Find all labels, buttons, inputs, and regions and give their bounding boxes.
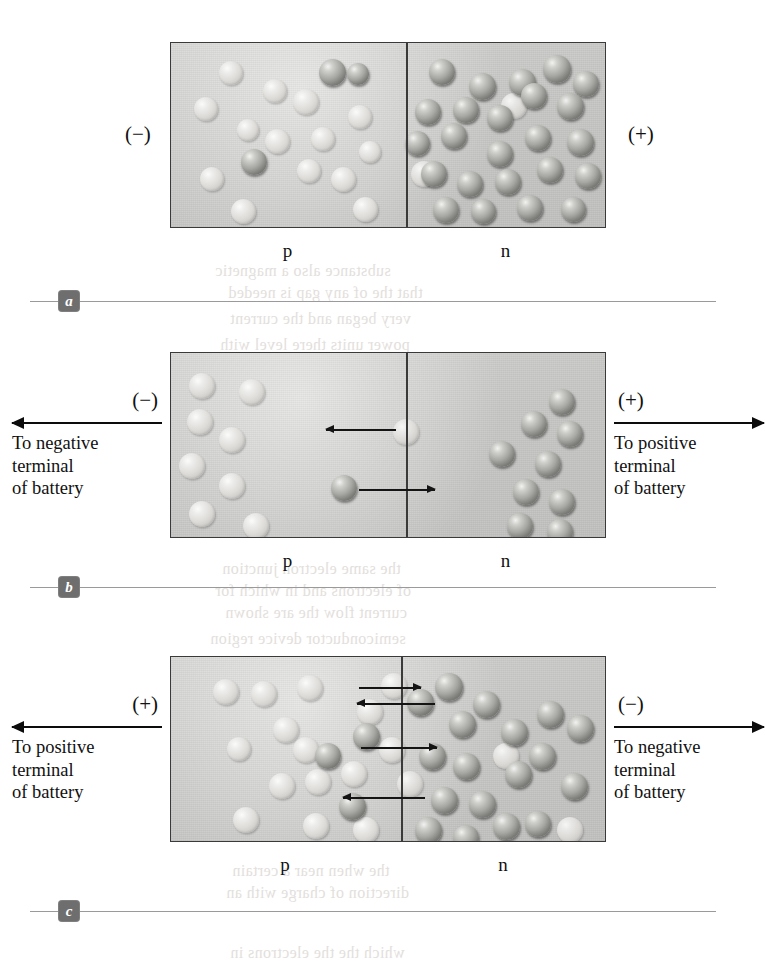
electron-carrier <box>441 123 467 149</box>
arrow-head-icon <box>325 425 334 433</box>
hole-carrier <box>219 427 245 453</box>
arrow-head-icon <box>11 721 24 733</box>
electron-carrier <box>347 63 369 85</box>
junction-line <box>406 353 408 537</box>
electron-carrier <box>557 93 584 120</box>
electron-carrier <box>521 411 547 437</box>
region-label-p: p <box>268 241 308 260</box>
arrow-shaft <box>357 703 435 705</box>
panel-marker-a: a <box>30 290 716 312</box>
hole-carrier <box>200 167 224 191</box>
electron-carrier <box>561 773 588 800</box>
electron-carrier <box>549 389 575 415</box>
arrow-head-icon <box>752 721 765 733</box>
electron-carrier <box>521 83 547 109</box>
hole-carrier <box>557 817 583 842</box>
battery-terminal-right: (+)To positive terminal of battery <box>614 390 764 500</box>
electron-carrier <box>567 129 594 156</box>
electron-carrier <box>449 711 476 738</box>
lead-arrow-right <box>614 721 764 733</box>
hole-carrier <box>237 119 259 141</box>
panel-badge: c <box>58 900 80 922</box>
bleedthrough-text: semiconductor device region <box>210 630 406 648</box>
battery-terminal-left: (−)To negative terminal of battery <box>12 390 162 500</box>
electron-carrier <box>415 99 441 125</box>
electron-carrier <box>431 787 458 814</box>
hole-carrier <box>219 473 245 499</box>
electron-carrier <box>561 197 586 222</box>
electron-carrier <box>487 141 513 167</box>
polarity-right: (+) <box>614 390 764 411</box>
electron-carrier <box>507 513 533 538</box>
panel-badge: b <box>58 576 80 598</box>
region-label-n: n <box>483 855 523 874</box>
hole-carrier <box>231 199 256 224</box>
electron-carrier <box>453 97 479 123</box>
hole-carrier <box>269 773 295 799</box>
hole-carrier <box>265 129 290 154</box>
electron-carrier <box>487 105 513 131</box>
electron-carrier <box>535 451 561 477</box>
hole-carrier <box>263 79 287 103</box>
arrow-shaft <box>343 797 425 799</box>
polarity-right: (−) <box>614 694 764 715</box>
junction-line <box>406 43 408 227</box>
hole-carrier <box>273 717 299 743</box>
panel-divider-rule <box>30 911 716 912</box>
electron-carrier <box>495 169 521 195</box>
electron-carrier <box>505 761 532 788</box>
arrow-shaft <box>614 422 764 424</box>
bleedthrough-text: very began and the current <box>230 310 411 328</box>
region-label-p: p <box>268 551 308 570</box>
electron-carrier <box>547 519 573 538</box>
electron-carrier <box>421 161 447 187</box>
arrow-head-icon <box>427 485 436 493</box>
electron-carrier <box>529 743 556 770</box>
hole-carrier <box>303 813 329 839</box>
arrow-shaft <box>614 726 764 728</box>
arrow-head-icon <box>356 699 365 707</box>
electron-carrier <box>429 59 455 85</box>
hole-carrier <box>219 61 243 85</box>
panel-marker-c: c <box>30 900 716 922</box>
region-label-n: n <box>486 241 526 260</box>
electron-carrier <box>453 825 479 842</box>
electron-carrier <box>567 715 594 742</box>
region-label-p: p <box>265 855 305 874</box>
hole-carrier <box>359 141 381 163</box>
arrow-head-icon <box>11 417 24 429</box>
electron-carrier <box>537 701 564 728</box>
arrow-head-icon <box>752 417 765 429</box>
terminal-caption-left: To positive terminal of battery <box>12 736 162 804</box>
hole-carrier <box>297 675 323 701</box>
hole-carrier <box>251 681 277 707</box>
electron-carrier <box>513 479 539 505</box>
polarity-left: (−) <box>125 124 151 145</box>
electron-carrier <box>501 719 528 746</box>
panel-badge: a <box>58 290 80 312</box>
arrow-shaft <box>326 429 396 431</box>
hole-carrier <box>233 807 259 833</box>
pn-junction-device-b <box>170 352 606 538</box>
arrow-shaft <box>359 489 435 491</box>
arrow-shaft <box>359 687 421 689</box>
arrow-shaft <box>12 422 162 424</box>
terminal-caption-left: To negative terminal of battery <box>12 432 162 500</box>
electron-carrier <box>433 197 459 223</box>
polarity-right: (+) <box>628 124 654 145</box>
lead-arrow-left <box>12 417 162 429</box>
electron-carrier <box>543 55 571 83</box>
electron-carrier <box>573 71 599 97</box>
hole-carrier <box>297 159 321 183</box>
electron-carrier <box>469 791 496 818</box>
hole-carrier <box>189 501 215 527</box>
hole-carrier <box>179 453 205 479</box>
electron-carrier <box>557 421 583 447</box>
region-label-n: n <box>486 551 526 570</box>
hole-carrier <box>189 373 215 399</box>
electron-carrier <box>457 171 483 197</box>
arrow-shaft <box>361 747 437 749</box>
electron-carrier <box>319 59 346 86</box>
terminal-caption-right: To positive terminal of battery <box>614 432 764 500</box>
electron-carrier <box>241 149 267 175</box>
